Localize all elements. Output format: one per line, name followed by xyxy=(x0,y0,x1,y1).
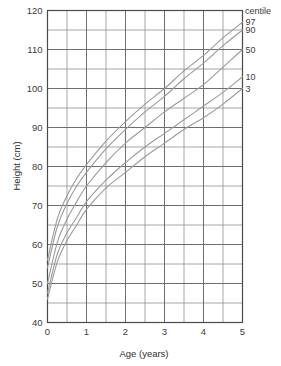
x-tick-label: 4 xyxy=(201,326,206,337)
y-tick-label: 70 xyxy=(32,200,43,211)
centile-label-50: 50 xyxy=(246,45,256,55)
y-tick-label: 80 xyxy=(32,161,43,172)
y-axis-title: Height (cm) xyxy=(11,141,22,190)
growth-chart: 405060708090100110120 012345 979050103 H… xyxy=(0,0,281,366)
centile-label-10: 10 xyxy=(246,72,256,82)
chart-background xyxy=(0,0,281,366)
y-tick-label: 50 xyxy=(32,278,43,289)
chart-canvas: 405060708090100110120 012345 979050103 H… xyxy=(0,0,281,366)
centile-legend-title: centile xyxy=(245,6,271,16)
y-tick-label: 60 xyxy=(32,239,43,250)
x-axis-title: Age (years) xyxy=(119,348,168,359)
x-tick-label: 0 xyxy=(45,326,50,337)
y-tick-label: 40 xyxy=(32,317,43,328)
x-tick-label: 1 xyxy=(84,326,89,337)
y-tick-label: 100 xyxy=(27,83,43,94)
x-tick-label: 2 xyxy=(123,326,128,337)
centile-label-3: 3 xyxy=(246,84,251,94)
y-tick-label: 120 xyxy=(27,5,43,16)
centile-label-90: 90 xyxy=(246,25,256,35)
x-tick-label: 5 xyxy=(240,326,245,337)
x-tick-label: 3 xyxy=(162,326,167,337)
y-tick-label: 110 xyxy=(27,44,42,55)
y-tick-label: 90 xyxy=(32,122,43,133)
